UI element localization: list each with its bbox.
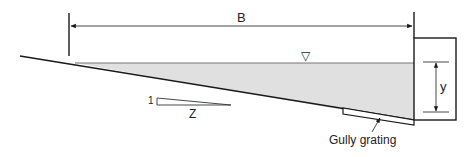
y-label: y bbox=[440, 80, 447, 93]
slope-horizontal-label: Z bbox=[189, 108, 196, 120]
water-surface-symbol: ▽ bbox=[301, 50, 310, 62]
gutter-diagram bbox=[0, 0, 472, 157]
slope-triangle bbox=[157, 98, 231, 105]
b-label: B bbox=[237, 11, 246, 24]
gully-grating-label: Gully grating bbox=[329, 134, 396, 146]
slope-vertical-label: 1 bbox=[148, 96, 154, 106]
kerb-box bbox=[414, 38, 456, 120]
grating-pointer-arrow bbox=[372, 118, 380, 132]
